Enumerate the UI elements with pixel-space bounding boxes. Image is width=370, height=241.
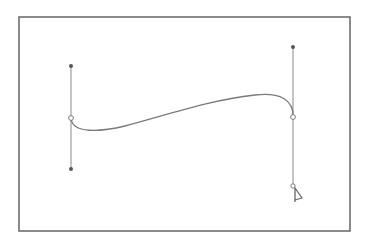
bezier-illustration (0, 0, 370, 241)
pen-cursor-icon (295, 188, 302, 202)
left-direction-point-top[interactable] (69, 64, 73, 68)
left-anchor-point[interactable] (69, 116, 74, 121)
bezier-path[interactable] (71, 94, 293, 130)
right-direction-point-bottom[interactable] (291, 184, 295, 188)
left-direction-point-bottom[interactable] (69, 167, 73, 171)
right-anchor-point[interactable] (291, 115, 296, 120)
right-direction-point-top[interactable] (291, 45, 295, 49)
